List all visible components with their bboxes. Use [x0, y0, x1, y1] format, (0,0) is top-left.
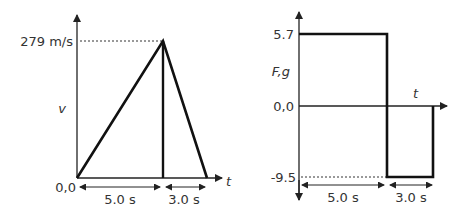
origin-label: 0,0 — [55, 180, 76, 195]
t-axis-label: t — [226, 174, 232, 189]
zero-label: 0,0 — [273, 99, 294, 114]
top-level-label: 5.7 — [273, 27, 294, 42]
interval-3s-label: 3.0 s — [168, 192, 200, 207]
interval-3s-label: 3.0 s — [395, 190, 427, 205]
velocity-curve — [77, 41, 207, 178]
interval-5s-label: 5.0 s — [327, 190, 359, 205]
bottom-level-label: -9.5 — [271, 170, 296, 185]
v-axis-label: v — [58, 101, 66, 116]
f-axis-label: F,g — [272, 64, 290, 79]
interval-5s-label: 5.0 s — [104, 192, 136, 207]
t-axis-label: t — [413, 86, 419, 101]
diagram-canvas: 279 m/s v 0,0 t 5.0 s 3.0 s 5.7 F,g 0,0 … — [0, 0, 464, 221]
velocity-plot: 279 m/s v 0,0 t 5.0 s 3.0 s — [20, 15, 232, 207]
peak-label: 279 m/s — [20, 34, 73, 49]
force-plot: 5.7 F,g 0,0 -9.5 t 5.0 s 3.0 s — [271, 12, 447, 205]
